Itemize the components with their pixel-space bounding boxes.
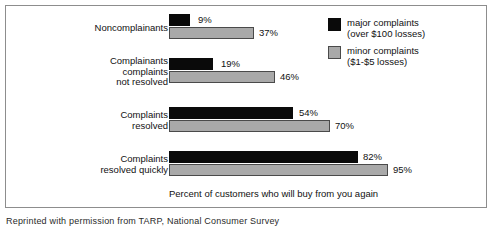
bar-value-major-complaints-not-resolved: 19% — [221, 58, 240, 70]
legend-label-minor: minor complaints ($1-$5 losses) — [347, 45, 419, 67]
bar-group-complaints-resolved-quickly: Complaints resolved quickly 82% 95% — [6, 151, 486, 181]
chart-legend: major complaints (over $100 losses) mino… — [328, 17, 425, 73]
bar-minor-complaints-resolved[interactable] — [169, 120, 330, 132]
plot-area: Noncomplainants 9% 37% Complainants comp… — [6, 6, 486, 207]
bar-major-complaints-resolved-quickly[interactable] — [169, 151, 358, 163]
bar-value-major-noncomplainants: 9% — [198, 14, 212, 26]
source-caption: Reprinted with permission from TARP, Nat… — [6, 216, 279, 227]
bar-major-complaints-resolved[interactable] — [169, 107, 293, 119]
category-label-complaints-not-resolved: Complainants complaints not resolved — [18, 56, 168, 88]
bar-major-noncomplainants[interactable] — [169, 14, 190, 26]
chart-frame: Noncomplainants 9% 37% Complainants comp… — [5, 5, 487, 208]
legend-item-minor[interactable]: minor complaints ($1-$5 losses) — [328, 45, 425, 67]
minor-swatch-icon — [328, 46, 341, 59]
bar-value-major-complaints-resolved-quickly: 82% — [363, 151, 382, 163]
bar-minor-complaints-not-resolved[interactable] — [169, 71, 275, 83]
bar-minor-noncomplainants[interactable] — [169, 27, 254, 39]
category-label-complaints-resolved: Complaints resolved — [18, 110, 168, 131]
bar-minor-complaints-resolved-quickly[interactable] — [169, 164, 388, 176]
legend-item-major[interactable]: major complaints (over $100 losses) — [328, 17, 425, 39]
bar-group-complaints-resolved: Complaints resolved 54% 70% — [6, 107, 486, 137]
bar-value-major-complaints-resolved: 54% — [299, 107, 318, 119]
x-axis-title: Percent of customers who will buy from y… — [169, 188, 378, 199]
bar-value-minor-complaints-resolved: 70% — [335, 120, 354, 132]
bar-major-complaints-not-resolved[interactable] — [169, 58, 213, 70]
category-label-complaints-resolved-quickly: Complaints resolved quickly — [18, 154, 168, 175]
major-swatch-icon — [328, 18, 341, 31]
chart-screenshot: Noncomplainants 9% 37% Complainants comp… — [0, 0, 500, 230]
bar-value-minor-noncomplainants: 37% — [259, 27, 278, 39]
legend-label-major: major complaints (over $100 losses) — [347, 17, 425, 39]
bar-value-minor-complaints-resolved-quickly: 95% — [393, 164, 412, 176]
bar-value-minor-complaints-not-resolved: 46% — [280, 71, 299, 83]
category-label-noncomplainants: Noncomplainants — [18, 23, 168, 34]
